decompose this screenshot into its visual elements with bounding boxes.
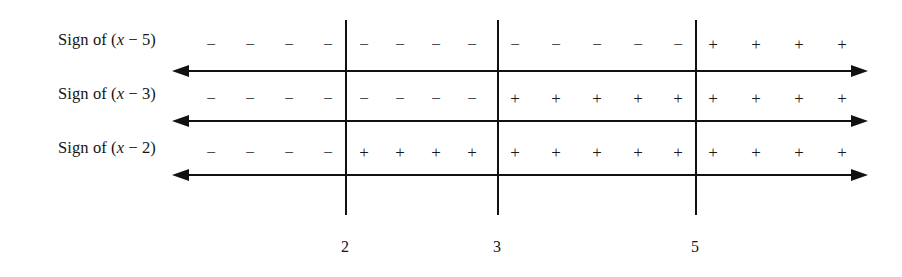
row-label-variable: x [117,138,124,157]
sign-mark: + [790,36,808,53]
arrow-left-icon [172,169,189,181]
sign-mark: + [547,90,565,107]
sign-mark: − [669,36,687,53]
row-label-prefix: Sign of ( [58,84,117,103]
sign-mark: − [202,144,220,161]
sign-mark: − [427,36,445,53]
sign-mark: + [747,90,765,107]
sign-mark: − [463,36,481,53]
sign-mark: + [704,90,722,107]
critical-value-divider [695,20,697,215]
sign-mark: − [391,90,409,107]
row-label-prefix: Sign of ( [58,30,117,49]
sign-mark: + [790,144,808,161]
row-label-suffix: − 3) [124,84,156,103]
sign-mark: + [833,90,851,107]
row-label-row-x-minus-2: Sign of (x − 2) [58,138,156,158]
sign-mark: − [355,36,373,53]
sign-mark: + [833,36,851,53]
sign-mark: − [463,90,481,107]
sign-mark: − [241,90,259,107]
sign-mark: − [391,36,409,53]
sign-mark: − [280,36,298,53]
tick-label: 3 [485,238,509,256]
sign-chart-diagram: Sign of (x − 5)Sign of (x − 3)Sign of (x… [0,0,902,277]
sign-mark: + [506,90,524,107]
sign-mark: − [506,36,524,53]
sign-mark: + [669,144,687,161]
sign-mark: − [319,144,337,161]
sign-mark: + [790,90,808,107]
sign-mark: + [704,36,722,53]
sign-mark: + [747,144,765,161]
sign-mark: − [629,36,647,53]
sign-mark: + [463,144,481,161]
sign-mark: − [547,36,565,53]
sign-mark: + [427,144,445,161]
critical-value-divider [497,20,499,215]
critical-value-divider [345,20,347,215]
sign-mark: + [833,144,851,161]
sign-mark: − [588,36,606,53]
arrow-right-icon [851,65,868,77]
sign-mark: + [704,144,722,161]
sign-mark: + [547,144,565,161]
sign-mark: + [588,144,606,161]
tick-label: 5 [683,238,707,256]
row-label-row-x-minus-3: Sign of (x − 3) [58,84,156,104]
row-label-suffix: − 5) [124,30,156,49]
sign-mark: − [280,90,298,107]
sign-mark: + [506,144,524,161]
sign-mark: + [391,144,409,161]
sign-mark: − [319,36,337,53]
sign-mark: − [355,90,373,107]
sign-mark: + [669,90,687,107]
tick-label: 2 [333,238,357,256]
sign-mark: − [319,90,337,107]
sign-mark: + [355,144,373,161]
number-line-row-x-minus-2 [184,174,856,176]
sign-mark: − [280,144,298,161]
sign-mark: + [747,36,765,53]
arrow-right-icon [851,169,868,181]
number-line-row-x-minus-5 [184,70,856,72]
sign-mark: − [202,36,220,53]
row-label-variable: x [117,30,124,49]
number-line-row-x-minus-3 [184,120,856,122]
sign-mark: + [588,90,606,107]
row-label-variable: x [117,84,124,103]
row-label-suffix: − 2) [124,138,156,157]
sign-mark: − [202,90,220,107]
arrow-left-icon [172,115,189,127]
sign-mark: − [241,36,259,53]
sign-mark: + [629,144,647,161]
arrow-right-icon [851,115,868,127]
row-label-row-x-minus-5: Sign of (x − 5) [58,30,156,50]
sign-mark: + [629,90,647,107]
sign-mark: − [241,144,259,161]
sign-mark: − [427,90,445,107]
arrow-left-icon [172,65,189,77]
row-label-prefix: Sign of ( [58,138,117,157]
